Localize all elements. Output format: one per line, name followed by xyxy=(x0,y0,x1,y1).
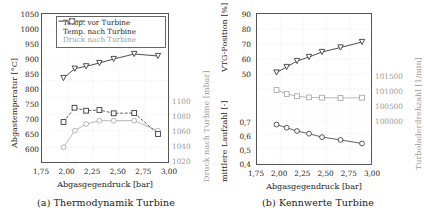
panel-b-ytick-bottom: 0,4 xyxy=(229,161,251,168)
panel-a-plot-area: Temp. vor Turbine Temp. nach Turbine Dru… xyxy=(41,13,169,163)
panel-a-ytick-right: 1020 xyxy=(172,158,191,165)
panel-a-ytick-right: 1060 xyxy=(172,128,191,135)
panel-b-series-vtg-position xyxy=(274,39,365,75)
panel-a-ytick-right: 1100 xyxy=(172,98,191,105)
panel-b-plot-area xyxy=(256,13,372,165)
panel-a-ytick: 950 xyxy=(5,41,39,48)
panel-b-ytick-bottom: 0,6 xyxy=(229,133,251,140)
panel-b-ytick-top: 60 xyxy=(229,56,251,63)
panel-b-ytick-right: 101000 xyxy=(375,88,403,95)
panel-b-xtick: 2,00 xyxy=(271,170,287,177)
panel-a-ytick: 750 xyxy=(5,101,39,108)
panel-a-xtick: 1,75 xyxy=(33,168,49,175)
panel-b-ytick-right: 100500 xyxy=(375,103,403,110)
panel-b-ytick-top: 50 xyxy=(229,71,251,78)
panel-b-ytick-right: 101500 xyxy=(375,73,403,80)
panel-a-ytick-right: 1080 xyxy=(172,113,191,120)
panel-a-thermodynamik-turbine: Abgastemperatur [°C] Druck nach Turbine … xyxy=(0,0,212,221)
panel-a-caption: (a) Thermodynamik Turbine xyxy=(0,197,212,208)
panel-a-xtick: 2,50 xyxy=(110,168,126,175)
panel-b-xtick: 1,75 xyxy=(248,170,264,177)
panel-b-xtick: 3,00 xyxy=(364,170,380,177)
panel-a-xtick: 2,75 xyxy=(135,168,151,175)
panel-a-ytick: 600 xyxy=(5,146,39,153)
panel-b-ytick-bottom: 0,5 xyxy=(229,147,251,154)
panel-a-series-temp-vor-turbine xyxy=(61,51,161,80)
panel-b-ytick-top: 90 xyxy=(229,11,251,18)
legend-row-druck-nach-turbine: Druck nach Turbine xyxy=(60,36,162,45)
panel-a-ytick: 1050 xyxy=(5,11,39,18)
panel-a-ytick: 900 xyxy=(5,56,39,63)
panel-b-xtick: 2,25 xyxy=(294,170,310,177)
panel-b-ylabel-right: Turboladerdrehzahl [1/min] xyxy=(414,57,423,170)
panel-a-xlabel: Abgasgegendruck [bar] xyxy=(57,180,153,189)
panel-b-caption: (b) Kennwerte Turbine xyxy=(212,197,424,208)
panel-b-xtick: 2,50 xyxy=(317,170,333,177)
panel-a-ytick: 650 xyxy=(5,131,39,138)
panel-b-ylabel-left-bottom: mittlere Laufzahl [-] xyxy=(220,101,229,182)
panel-b-ytick-top: 80 xyxy=(229,26,251,33)
panel-a-legend: Temp. vor Turbine Temp. nach Turbine Dru… xyxy=(56,16,166,48)
panel-a-ytick: 850 xyxy=(5,71,39,78)
panel-b-series-turboladerdrehzahl xyxy=(274,88,364,101)
panel-a-ytick: 700 xyxy=(5,116,39,123)
panel-b-ytick-top: 70 xyxy=(229,41,251,48)
panel-a-xtick: 2,25 xyxy=(84,168,100,175)
panel-a-ylabel-right: Druck nach Turbine [mbar] xyxy=(202,71,211,182)
panel-b-kennwerte-turbine: VTG-Position [%] mittlere Laufzahl [-] T… xyxy=(212,0,424,221)
panel-b-ytick-bottom: 0,7 xyxy=(229,119,251,126)
panel-b-ytick-right: 100000 xyxy=(375,118,403,125)
panel-b-plot-svg xyxy=(257,14,373,166)
panel-a-xtick: 2,00 xyxy=(58,168,74,175)
panel-a-xtick: 3,00 xyxy=(161,168,177,175)
panel-a-ytick-right: 1040 xyxy=(172,143,191,150)
legend-label: Druck nach Turbine xyxy=(60,36,136,45)
legend-symbol-circle-icon xyxy=(57,17,87,26)
panel-b-xtick: 2,75 xyxy=(341,170,357,177)
panel-b-ylabel-left-top: VTG-Position [%] xyxy=(220,3,229,72)
panel-a-ytick: 800 xyxy=(5,86,39,93)
figure-two-panel: Abgastemperatur [°C] Druck nach Turbine … xyxy=(0,0,424,221)
panel-a-ytick: 1000 xyxy=(5,26,39,33)
panel-b-xlabel: Abgasgegendruck [bar] xyxy=(266,182,362,191)
